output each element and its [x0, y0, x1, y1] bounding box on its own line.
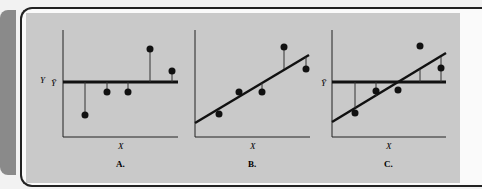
x-axis-label: X: [249, 141, 256, 151]
panel-a: Y Ȳ X A.: [40, 30, 178, 169]
panel-label-b: B.: [248, 159, 256, 169]
panel-label-c: C.: [384, 159, 393, 169]
ybar-label: Ȳ: [51, 78, 57, 88]
ybar-label: Ȳ: [321, 78, 327, 88]
y-axis-label: Y: [40, 75, 46, 85]
panel-label-a: A.: [116, 159, 125, 169]
panel-c: Ȳ X C.: [321, 30, 446, 169]
panel-b: X B.: [195, 30, 310, 169]
x-axis-label: X: [117, 141, 124, 151]
x-axis-label: X: [385, 141, 392, 151]
